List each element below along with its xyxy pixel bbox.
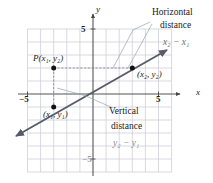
y-axis-label: y xyxy=(96,5,100,14)
point-x2y2-marker xyxy=(130,66,135,71)
point-label-x2y2: (x₂, y₂) xyxy=(137,70,162,79)
grid-lines xyxy=(28,29,172,172)
y-tick-negative-5: −5 xyxy=(82,155,92,164)
horizontal-distance-callout-line1: Horizontal xyxy=(152,8,193,18)
point-label-x1y1: (x₁, y₁) xyxy=(43,110,68,119)
coordinate-plane-figure: x y −5 5 5 −5 P(x₁, y₂) (x₁, y₁) (x₂, y₂… xyxy=(0,0,213,183)
point-P-marker xyxy=(51,66,56,71)
y-tick-positive-5: 5 xyxy=(81,25,86,34)
horizontal-distance-expression: x₂ − x₁ xyxy=(163,38,189,48)
x-axis-label: x xyxy=(196,88,200,97)
vertical-distance-expression: y₂ − y₁ xyxy=(113,139,139,149)
horizontal-distance-callout-line2: distance xyxy=(160,21,191,31)
x-tick-positive-5: 5 xyxy=(156,95,161,104)
leader-lines xyxy=(57,22,152,108)
x-tick-negative-5: −5 xyxy=(19,95,29,104)
vertical-distance-callout-line2: distance xyxy=(111,122,142,132)
point-label-P: P(x₁, y₂) xyxy=(33,54,63,63)
vertical-distance-callout-line1: Vertical xyxy=(109,107,139,117)
